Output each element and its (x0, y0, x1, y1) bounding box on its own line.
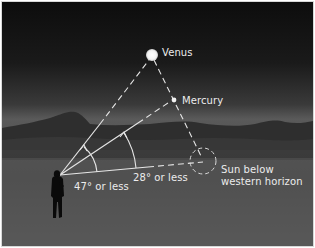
venus-label: Venus (162, 47, 193, 58)
mercury-icon (172, 98, 177, 103)
near-mountain-ridge (2, 137, 313, 160)
angle-28-label: 28° or less (133, 172, 188, 183)
mercury-label: Mercury (182, 95, 223, 106)
venus-icon (146, 49, 158, 61)
angle-47-label: 47° or less (74, 181, 129, 192)
diagram-graphics (2, 2, 313, 246)
night-sky-scene: Venus Mercury Sun below western horizon … (2, 2, 313, 246)
sun-label-line2: western horizon (221, 176, 303, 187)
mercury-sightline-dashed (138, 101, 171, 123)
venus-sightline-dashed (100, 60, 149, 124)
sun-label-line1: Sun below (221, 164, 274, 175)
